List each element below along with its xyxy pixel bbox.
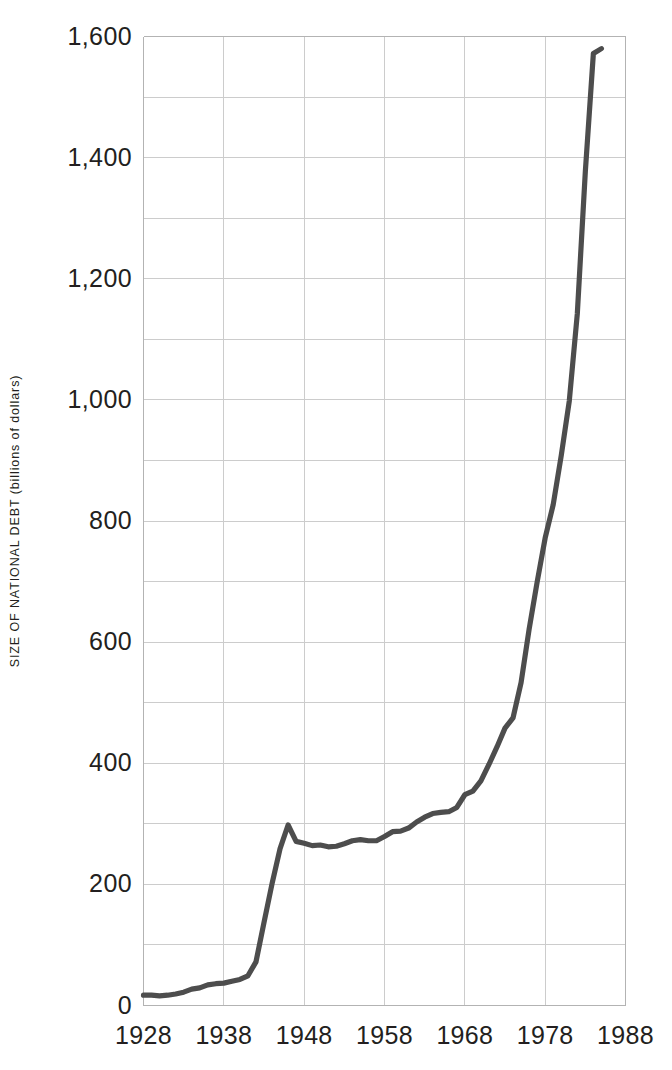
plot-area — [0, 0, 672, 1070]
data-series-line — [144, 49, 602, 996]
national-debt-line-chart: SIZE OF NATIONAL DEBT (billions of dolla… — [0, 0, 672, 1070]
